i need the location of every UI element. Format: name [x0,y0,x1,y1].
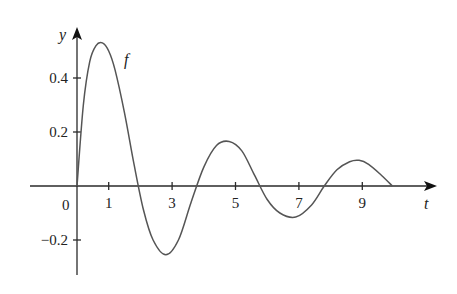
x-axis-label: t [424,195,429,212]
curve-f [77,42,392,254]
x-tick-label: 5 [232,195,240,211]
y-tick-label: 0.4 [49,70,68,86]
y-ticks: 0.40.2−0.2 [41,70,81,248]
y-tick-label: −0.2 [41,232,68,248]
y-tick-label: 0.2 [49,124,68,140]
line-chart: 13579 0.40.2−0.2 t y f 0 [0,0,457,294]
x-tick-label: 9 [359,195,367,211]
curve-label-f: f [124,51,131,69]
x-tick-label: 1 [105,195,113,211]
y-axis-label: y [57,26,67,44]
origin-label: 0 [62,197,70,213]
x-tick-label: 7 [295,195,303,211]
x-tick-label: 3 [168,195,176,211]
